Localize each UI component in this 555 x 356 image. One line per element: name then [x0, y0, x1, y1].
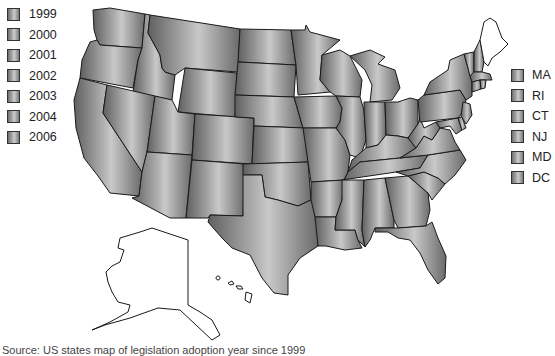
- legend-item: 2003: [7, 86, 57, 107]
- legend-label: 2002: [29, 69, 57, 83]
- state-hi-3: [236, 286, 243, 289]
- state-sd: [235, 62, 296, 97]
- legend-swatch: [7, 110, 20, 123]
- legend-item: 2001: [7, 45, 57, 66]
- state-hi-1: [216, 276, 220, 280]
- state-nm: [186, 160, 245, 218]
- legend-item: MA: [511, 65, 551, 86]
- state-fl: [375, 222, 446, 284]
- state-ks: [252, 126, 308, 164]
- state-ak: [92, 228, 220, 340]
- legend-label: 2001: [29, 48, 57, 62]
- legend-swatch: [511, 130, 524, 143]
- legend-label: 2000: [29, 28, 57, 42]
- legend-item: 2004: [7, 107, 57, 128]
- legend-states: MA RI CT NJ MD DC: [511, 65, 551, 188]
- legend-item: 2000: [7, 25, 57, 46]
- legend-swatch: [511, 171, 524, 184]
- legend-item: 1999: [7, 4, 57, 25]
- state-co: [192, 114, 254, 164]
- state-mt: [148, 15, 240, 75]
- legend-label: 2006: [29, 130, 57, 144]
- state-hi-2: [228, 281, 234, 285]
- legend-label: 2004: [29, 110, 57, 124]
- legend-swatch: [511, 89, 524, 102]
- legend-label: MD: [532, 150, 551, 164]
- state-ri: [480, 80, 486, 89]
- legend-item: NJ: [511, 127, 551, 148]
- state-nd: [238, 29, 296, 65]
- figure-caption: Source: US states map of legislation ado…: [2, 344, 305, 356]
- legend-label: MA: [532, 68, 551, 82]
- legend-label: 1999: [29, 7, 57, 21]
- legend-swatch: [7, 69, 20, 82]
- legend-item: 2006: [7, 127, 57, 148]
- legend-item: DC: [511, 168, 551, 189]
- legend-item: RI: [511, 86, 551, 107]
- legend-label: 2003: [29, 89, 57, 103]
- state-wy: [178, 68, 237, 117]
- legend-swatch: [7, 8, 20, 21]
- state-wa: [93, 8, 145, 48]
- legend-swatch: [7, 90, 20, 103]
- legend-label: RI: [532, 89, 545, 103]
- legend-years: 1999 2000 2001 2002 2003 2004 2006: [7, 4, 57, 148]
- state-hi-4: [245, 292, 252, 303]
- state-ct: [472, 80, 481, 92]
- state-me: [480, 18, 508, 66]
- legend-swatch: [511, 110, 524, 123]
- legend-label: CT: [532, 109, 549, 123]
- legend-item: MD: [511, 147, 551, 168]
- state-ia: [294, 96, 342, 128]
- legend-swatch: [511, 69, 524, 82]
- legend-item: 2002: [7, 66, 57, 87]
- legend-label: DC: [532, 171, 550, 185]
- legend-swatch: [7, 131, 20, 144]
- legend-swatch: [511, 151, 524, 164]
- legend-item: CT: [511, 106, 551, 127]
- legend-swatch: [7, 49, 20, 62]
- legend-label: NJ: [532, 130, 547, 144]
- legend-swatch: [7, 28, 20, 41]
